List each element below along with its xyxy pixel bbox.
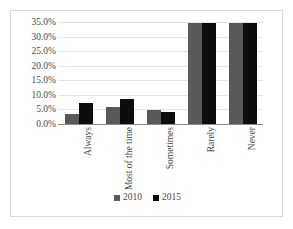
bar-2015-most-of-the-time: [120, 99, 134, 125]
x-axis-category-label: Sometimes: [166, 127, 176, 169]
bar-2015-rarely: [202, 23, 216, 125]
plot-area: [58, 23, 263, 125]
chart-container: 0.0%5.0%10.0%15.0%20.0%25.0%30.0%35.0% A…: [10, 10, 283, 217]
y-axis-tick-label: 20.0%: [31, 62, 56, 72]
legend-label: 2010: [123, 193, 142, 203]
bar-2010-rarely: [188, 23, 202, 125]
chart-legend: 20102015: [11, 193, 284, 203]
bar-group: [106, 23, 134, 125]
bar-group: [147, 23, 175, 125]
x-axis-line: [58, 124, 263, 125]
y-axis-tick-label: 15.0%: [31, 77, 56, 87]
y-axis-tick-label: 30.0%: [31, 33, 56, 43]
y-axis: 0.0%5.0%10.0%15.0%20.0%25.0%30.0%35.0%: [15, 23, 56, 125]
y-axis-tick-label: 5.0%: [36, 106, 56, 116]
x-axis-category-label: Rarely: [207, 127, 217, 152]
bar-group: [229, 23, 257, 125]
legend-item-2015[interactable]: 2015: [153, 193, 181, 203]
x-axis-category-label: Most of the time: [125, 127, 135, 190]
legend-swatch-icon: [153, 195, 159, 201]
bar-2010-most-of-the-time: [106, 107, 120, 125]
legend-item-2010[interactable]: 2010: [114, 193, 142, 203]
y-axis-tick-label: 35.0%: [31, 18, 56, 28]
legend-label: 2015: [162, 193, 181, 203]
bar-group: [65, 23, 93, 125]
bars-layer: [58, 23, 263, 125]
legend-swatch-icon: [114, 195, 120, 201]
y-axis-tick-label: 25.0%: [31, 47, 56, 57]
x-axis-category-label: Never: [248, 127, 258, 150]
bar-2015-never: [243, 23, 257, 125]
bar-2015-always: [79, 103, 93, 125]
x-axis-category-labels: AlwaysMost of the timeSometimesRarelyNev…: [58, 127, 263, 197]
bar-2010-sometimes: [147, 110, 161, 125]
bar-2010-never: [229, 23, 243, 125]
bar-group: [188, 23, 216, 125]
x-axis-category-label: Always: [84, 127, 94, 156]
y-axis-tick-label: 0.0%: [36, 120, 56, 130]
y-axis-tick-label: 10.0%: [31, 91, 56, 101]
